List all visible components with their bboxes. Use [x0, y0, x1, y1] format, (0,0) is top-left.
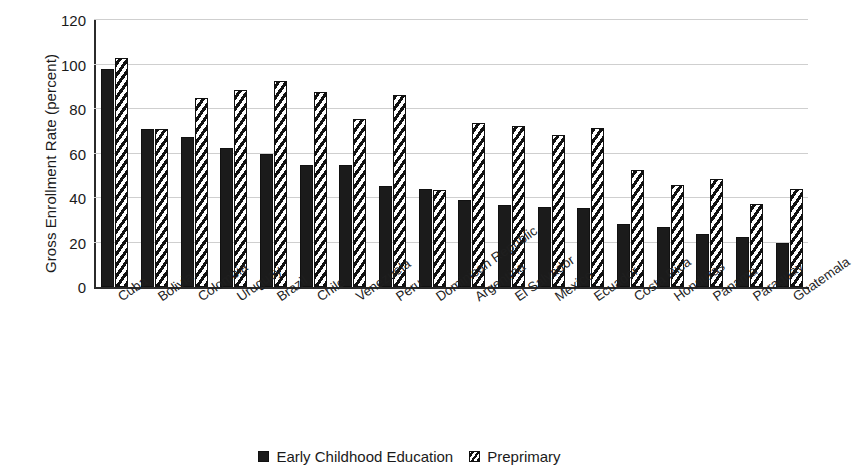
y-tick-label: 80	[42, 101, 86, 118]
bar-group	[300, 20, 327, 287]
bar-preprimary	[234, 90, 247, 287]
bar-group	[141, 20, 168, 287]
bar-group	[458, 20, 485, 287]
y-tick-label: 20	[42, 234, 86, 251]
bar-preprimary	[591, 128, 604, 287]
bar-group	[617, 20, 644, 287]
bar-group	[419, 20, 446, 287]
legend-label: Preprimary	[487, 448, 560, 465]
bar-preprimary	[115, 58, 128, 287]
hatched-square-icon	[469, 451, 480, 462]
bar-early-childhood-education	[300, 165, 313, 287]
bar-early-childhood-education	[141, 129, 154, 287]
bar-group	[776, 20, 803, 287]
y-tick-label: 60	[42, 145, 86, 162]
bar-group	[379, 20, 406, 287]
bar-early-childhood-education	[419, 189, 432, 287]
legend-item: Preprimary	[469, 448, 560, 465]
bar-early-childhood-education	[101, 69, 114, 287]
bar-group	[220, 20, 247, 287]
bar-preprimary	[274, 81, 287, 287]
bar-preprimary	[353, 119, 366, 287]
bar-group	[101, 20, 128, 287]
chart-legend: Early Childhood EducationPreprimary	[0, 448, 819, 465]
bar-early-childhood-education	[339, 165, 352, 287]
bar-group	[657, 20, 684, 287]
bar-group	[538, 20, 565, 287]
bar-preprimary	[155, 129, 168, 287]
bar-group	[736, 20, 763, 287]
y-tick-label: 100	[42, 56, 86, 73]
solid-square-icon	[258, 451, 269, 462]
bar-preprimary	[433, 190, 446, 287]
plot-area	[94, 20, 808, 287]
y-tick-label: 120	[42, 12, 86, 29]
bar-group	[260, 20, 287, 287]
legend-item: Early Childhood Education	[258, 448, 453, 465]
y-tick-label: 0	[42, 279, 86, 296]
bar-group	[339, 20, 366, 287]
bar-early-childhood-education	[181, 137, 194, 287]
bar-group	[696, 20, 723, 287]
bar-preprimary	[195, 98, 208, 287]
legend-label: Early Childhood Education	[276, 448, 453, 465]
y-tick-label: 40	[42, 190, 86, 207]
bar-group	[181, 20, 208, 287]
bar-group	[577, 20, 604, 287]
bar-preprimary	[314, 92, 327, 287]
